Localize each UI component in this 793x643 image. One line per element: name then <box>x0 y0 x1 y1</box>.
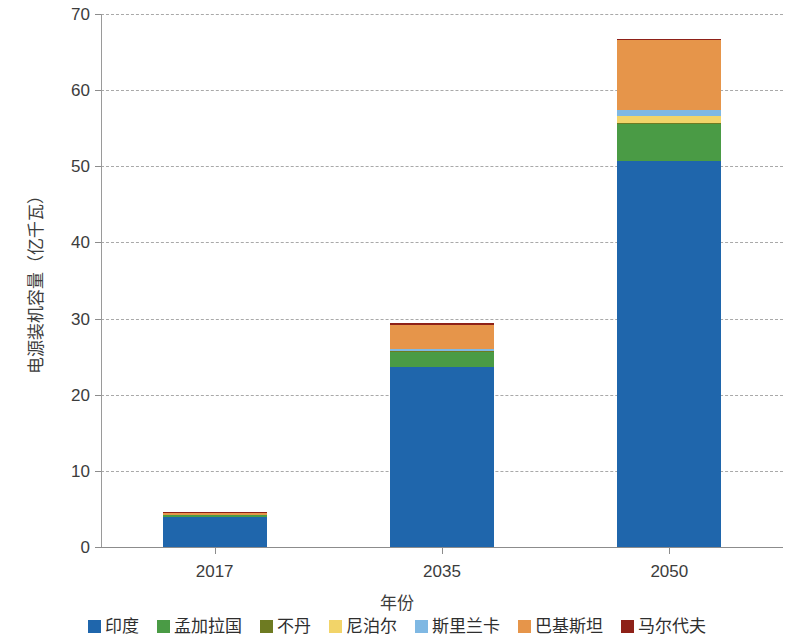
y-axis-tick-label: 10 <box>46 462 90 482</box>
legend-swatch-icon <box>88 620 101 633</box>
bar-group-2050[interactable] <box>617 14 721 547</box>
x-axis-tick-mark <box>215 547 216 554</box>
legend-swatch-icon <box>518 620 531 633</box>
legend-item-2[interactable]: 不丹 <box>260 618 311 635</box>
bar-segment[interactable] <box>617 39 721 40</box>
x-axis-tick-mark <box>442 547 443 554</box>
bar-segment[interactable] <box>617 40 721 110</box>
legend-item-6[interactable]: 马尔代夫 <box>621 618 706 635</box>
legend-label: 不丹 <box>277 618 311 635</box>
legend-label: 孟加拉国 <box>174 618 242 635</box>
legend-label: 巴基斯坦 <box>535 618 603 635</box>
legend-item-5[interactable]: 巴基斯坦 <box>518 618 603 635</box>
y-axis-tick-label: 60 <box>46 81 90 101</box>
bar-segment[interactable] <box>617 110 721 116</box>
y-axis-line <box>101 14 102 547</box>
y-axis-title: 电源装机容量（亿千瓦） <box>22 151 47 411</box>
bar-segment[interactable] <box>390 323 494 324</box>
y-axis-tick-label: 0 <box>46 538 90 558</box>
bar-segment[interactable] <box>617 124 721 161</box>
x-axis-tick-mark <box>669 547 670 554</box>
x-axis-tick-label: 2017 <box>155 562 275 582</box>
y-axis-tick-label: 40 <box>46 233 90 253</box>
chart-legend: 印度孟加拉国不丹尼泊尔斯里兰卡巴基斯坦马尔代夫 <box>0 618 793 635</box>
bar-segment[interactable] <box>617 122 721 123</box>
legend-swatch-icon <box>157 620 170 633</box>
plot-area <box>101 14 783 547</box>
y-axis-tick-label: 30 <box>46 310 90 330</box>
legend-swatch-icon <box>415 620 428 633</box>
legend-item-1[interactable]: 孟加拉国 <box>157 618 242 635</box>
bar-segment[interactable] <box>390 349 494 351</box>
bar-group-2035[interactable] <box>390 14 494 547</box>
y-axis-tick-label: 20 <box>46 386 90 406</box>
y-axis-tick-label: 70 <box>46 5 90 25</box>
legend-item-3[interactable]: 尼泊尔 <box>329 618 397 635</box>
stacked-bar-chart: 电源装机容量（亿千瓦） 706050403020100 201720352050… <box>0 0 793 643</box>
bar-segment[interactable] <box>163 515 267 516</box>
legend-label: 马尔代夫 <box>638 618 706 635</box>
bar-segment[interactable] <box>390 352 494 366</box>
legend-item-4[interactable]: 斯里兰卡 <box>415 618 500 635</box>
bar-segment[interactable] <box>390 325 494 349</box>
bar-group-2017[interactable] <box>163 14 267 547</box>
bar-segment[interactable] <box>163 512 267 513</box>
bar-segment[interactable] <box>617 161 721 547</box>
y-axis-tick-label: 50 <box>46 157 90 177</box>
bar-segment[interactable] <box>163 513 267 515</box>
legend-swatch-icon <box>329 620 342 633</box>
bar-segment[interactable] <box>163 517 267 547</box>
bar-segment[interactable] <box>617 116 721 122</box>
x-axis-tick-label: 2050 <box>609 562 729 582</box>
x-axis-title: 年份 <box>0 589 793 614</box>
legend-item-0[interactable]: 印度 <box>88 618 139 635</box>
x-axis-tick-label: 2035 <box>382 562 502 582</box>
bar-segment[interactable] <box>390 367 494 547</box>
legend-swatch-icon <box>621 620 634 633</box>
legend-label: 印度 <box>105 618 139 635</box>
legend-label: 斯里兰卡 <box>432 618 500 635</box>
legend-swatch-icon <box>260 620 273 633</box>
legend-label: 尼泊尔 <box>346 618 397 635</box>
